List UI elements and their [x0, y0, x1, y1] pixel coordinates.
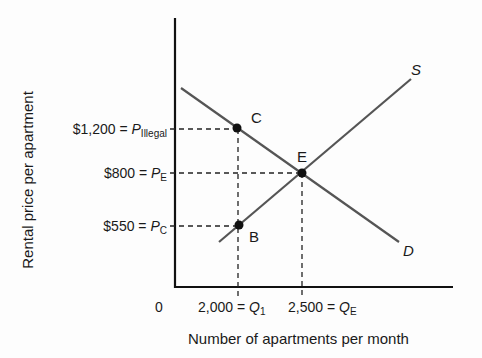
label-e: E	[297, 149, 307, 164]
supply-curve	[219, 79, 411, 242]
label-c: C	[251, 110, 262, 125]
y-tick-p-illegal: $1,200 = PIllegal	[73, 122, 167, 139]
x-tick-q1: 2,000 = Q1	[198, 300, 265, 317]
label-b: B	[249, 229, 259, 244]
point-e	[298, 169, 307, 178]
y-axis-title: Rental price per apartment	[19, 91, 36, 269]
demand-curve	[181, 88, 399, 242]
y-tick-p-e: $800 = PE	[104, 166, 167, 183]
supply-label: S	[411, 62, 421, 77]
point-b	[235, 221, 244, 230]
guide-lines	[170, 129, 302, 296]
y-tick-p-c: $550 = PC	[103, 219, 167, 236]
point-c	[233, 124, 242, 133]
x-tick-qe: 2,500 = QE	[288, 300, 357, 317]
x-axis-title: Number of apartments per month	[188, 330, 409, 347]
demand-label: D	[403, 243, 414, 258]
origin-label: 0	[155, 300, 163, 314]
